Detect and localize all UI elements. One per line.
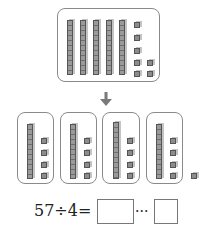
unit-cube	[84, 150, 90, 156]
down-arrow-icon	[100, 92, 112, 107]
unit-cube	[41, 150, 47, 156]
unit-cube	[127, 162, 133, 168]
group-box-2	[60, 112, 97, 184]
ten-rod	[80, 20, 86, 75]
unit-cube	[41, 162, 47, 168]
unit-cube	[84, 162, 90, 168]
leftover-unit-cube	[191, 173, 197, 179]
group-box-1	[17, 112, 54, 184]
unit-cube	[170, 173, 176, 179]
unit-cube	[84, 138, 90, 144]
group-box-4	[146, 112, 183, 184]
ten-rod	[70, 124, 76, 179]
unit-cube	[127, 150, 133, 156]
unit-cube	[134, 71, 140, 77]
ten-rod	[113, 122, 119, 179]
ten-rod	[156, 124, 162, 179]
unit-cube	[147, 71, 153, 77]
quotient-answer-box[interactable]	[97, 199, 134, 224]
unit-cube	[170, 162, 176, 168]
equation-expression: 57÷4=	[34, 200, 91, 222]
unit-cube	[170, 150, 176, 156]
ten-rod	[106, 20, 112, 75]
unit-cube	[41, 138, 47, 144]
ten-rod	[67, 20, 73, 75]
remainder-answer-box[interactable]	[154, 199, 178, 224]
ten-rod	[93, 20, 99, 75]
unit-cube	[134, 60, 140, 66]
ten-rod	[119, 20, 125, 75]
unit-cube	[127, 138, 133, 144]
remainder-symbol: ···	[135, 200, 148, 222]
unit-cube	[134, 48, 140, 54]
unit-cube	[147, 60, 153, 66]
unit-cube	[134, 35, 140, 41]
unit-cube	[134, 22, 140, 28]
group-box-3	[102, 112, 140, 184]
unit-cube	[170, 138, 176, 144]
unit-cube	[84, 173, 90, 179]
top-blocks-box	[57, 8, 160, 82]
ten-rod	[27, 124, 33, 179]
unit-cube	[41, 173, 47, 179]
unit-cube	[127, 173, 133, 179]
equation-row: 57÷4= ···	[0, 200, 209, 224]
